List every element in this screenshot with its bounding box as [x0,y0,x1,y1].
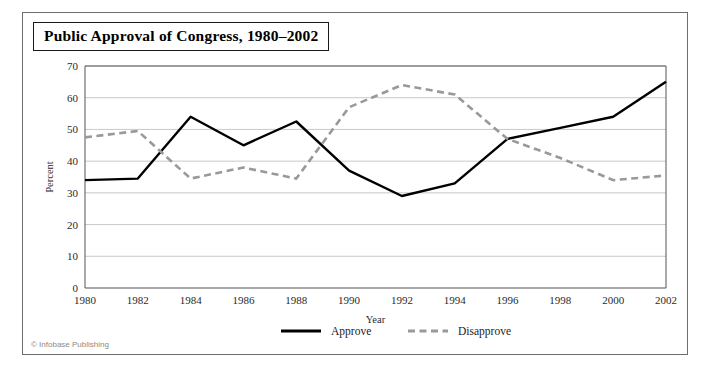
x-axis-title: Year [366,314,386,325]
chart-axes [85,66,666,288]
series-line-disapprove [85,85,666,180]
y-tick-label: 50 [67,123,79,135]
approval-line-chart: 010203040506070 198019821984198619881990… [23,13,689,356]
y-tick-label: 70 [67,60,79,72]
y-tick-label: 0 [73,282,79,294]
x-tick-label: 1998 [549,294,572,306]
y-axis-tick-labels: 010203040506070 [67,60,79,294]
chart-plot-area: 010203040506070 198019821984198619881990… [23,13,689,356]
data-series [85,82,666,196]
figure-frame: Public Approval of Congress, 1980–2002 0… [22,12,688,355]
y-tick-label: 10 [67,250,79,262]
y-axis-title: Percent [44,161,55,193]
series-line-approve [85,82,666,196]
y-tick-label: 30 [67,187,79,199]
chart-legend: ApproveDisapprove [281,325,511,338]
x-tick-label: 1986 [232,294,255,306]
x-axis-tick-labels: 1980198219841986198819901992199419961998… [74,294,677,306]
x-tick-label: 1992 [391,294,413,306]
x-tick-label: 1982 [127,294,149,306]
x-tick-label: 1988 [285,294,308,306]
legend-label-approve: Approve [331,325,371,338]
x-tick-label: 1994 [444,294,467,306]
x-tick-label: 2000 [602,294,625,306]
legend-label-disapprove: Disapprove [458,325,511,338]
x-tick-label: 1984 [180,294,203,306]
y-tick-label: 20 [67,219,79,231]
y-tick-label: 40 [67,155,79,167]
x-tick-label: 1990 [338,294,361,306]
y-tick-label: 60 [67,92,79,104]
x-tick-label: 1980 [74,294,97,306]
x-tick-label: 1996 [497,294,519,306]
copyright-credit: © Infobase Publishing [31,340,109,349]
x-tick-label: 2002 [655,294,677,306]
